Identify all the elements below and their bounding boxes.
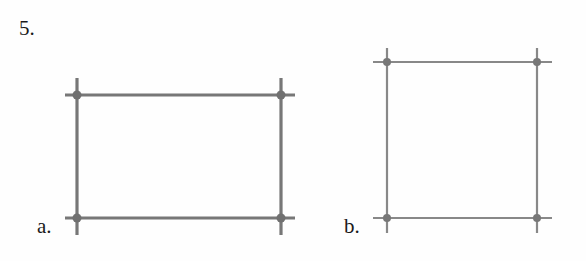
figure-b-top-right-vertex-dot (533, 58, 541, 66)
figure-a-top-right-vertex-dot (277, 91, 286, 100)
diagram-canvas: 5. a. b. (0, 0, 586, 261)
figure-a-top-left-vertex-dot (73, 91, 82, 100)
figures-svg (0, 0, 586, 261)
figure-b-top-left-vertex-dot (383, 58, 391, 66)
figure-a-bottom-left-vertex-dot (73, 214, 82, 223)
figure-b-bottom-right-vertex-dot (533, 214, 541, 222)
figure-b-bottom-left-vertex-dot (383, 214, 391, 222)
figure-a-rectangle (65, 78, 295, 235)
figure-b-square (373, 48, 552, 233)
figure-a-bottom-right-vertex-dot (277, 214, 286, 223)
